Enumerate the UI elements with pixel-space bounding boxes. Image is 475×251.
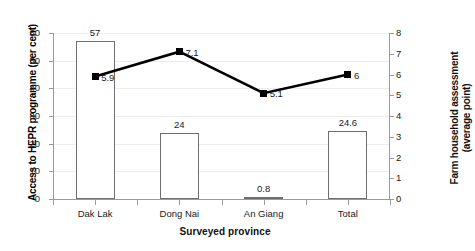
- y-axis-right-tick-mark: [390, 116, 394, 117]
- x-axis-title: Surveyed province: [0, 226, 450, 237]
- y-axis-right-tick-label: 0: [396, 193, 412, 204]
- y-axis-right-tick-label: 2: [396, 152, 412, 163]
- line-marker-dong-nai: [176, 48, 183, 55]
- line-value-label: 5.9: [101, 72, 114, 83]
- x-axis-category-label: An Giang: [224, 208, 304, 219]
- x-axis-tick-mark: [137, 200, 138, 205]
- y-axis-right-tick-mark: [390, 54, 394, 55]
- line-marker-total: [344, 71, 351, 78]
- y-axis-left-tick-label: 40: [24, 82, 40, 93]
- x-axis-tick-mark: [306, 200, 307, 205]
- plot-area: 57240.824.65.97.15.16: [53, 33, 390, 199]
- y-axis-left-tick-label: 60: [24, 27, 40, 38]
- y-axis-right-tick-label: 8: [396, 27, 412, 38]
- x-axis-tick-mark: [390, 200, 391, 205]
- y-axis-left-tick-label: 0: [24, 193, 40, 204]
- y-axis-right-tick-mark: [390, 33, 394, 34]
- line-value-label: 6: [354, 70, 359, 81]
- x-axis-category-label: Dak Lak: [55, 208, 135, 219]
- line-marker-dak-lak: [92, 73, 99, 80]
- x-axis-tick-mark: [348, 200, 349, 205]
- line-value-label: 7.1: [185, 47, 198, 58]
- y-axis-right-tick-label: 5: [396, 89, 412, 100]
- y-axis-right-tick-label: 3: [396, 131, 412, 142]
- bar-value-label: 24.6: [318, 117, 378, 128]
- y-axis-left-line: [53, 33, 54, 199]
- y-axis-right-tick-label: 4: [396, 110, 412, 121]
- y-axis-right-tick-mark: [390, 178, 394, 179]
- y-axis-right-tick-label: 1: [396, 172, 412, 183]
- y-axis-right-line: [389, 33, 390, 199]
- y-axis-left-tick-label: 20: [24, 138, 40, 149]
- x-axis-tick-mark: [95, 200, 96, 205]
- bar-value-label: 24: [149, 119, 209, 130]
- line-path: [95, 52, 348, 94]
- y-axis-right-tick-label: 6: [396, 69, 412, 80]
- x-axis-tick-mark: [264, 200, 265, 205]
- x-axis-tick-mark: [222, 200, 223, 205]
- y-axis-right-title-line1: Farm household assessment: [449, 23, 461, 213]
- y-axis-right-tick-mark: [390, 75, 394, 76]
- y-axis-right-tick-mark: [390, 158, 394, 159]
- y-axis-right-tick-mark: [390, 95, 394, 96]
- y-axis-right-title-line2: (average point): [461, 23, 473, 213]
- y-axis-left-tick-label: 50: [24, 55, 40, 66]
- line-value-label: 5.1: [270, 88, 283, 99]
- y-axis-right-tick-mark: [390, 137, 394, 138]
- y-axis-right-title: Farm household assessment (average point…: [449, 23, 475, 213]
- bar-value-label: 0.8: [234, 183, 294, 194]
- bar-value-label: 57: [65, 27, 125, 38]
- x-axis-category-label: Dong Nai: [139, 208, 219, 219]
- x-axis-category-label: Total: [308, 208, 388, 219]
- x-axis-tick-mark: [53, 200, 54, 205]
- y-axis-right-tick-label: 7: [396, 48, 412, 59]
- y-axis-left-tick-label: 30: [24, 110, 40, 121]
- x-axis-tick-mark: [179, 200, 180, 205]
- line-marker-an-giang: [260, 90, 267, 97]
- y-axis-left-tick-label: 10: [24, 165, 40, 176]
